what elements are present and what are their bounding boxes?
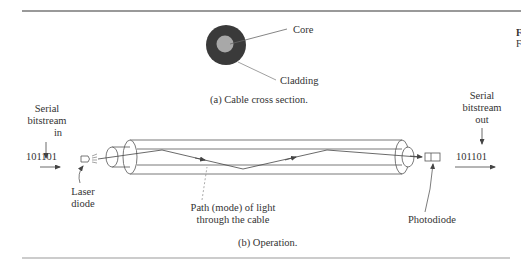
side-fragment-line2: F — [516, 38, 521, 49]
side-text-fragment: F F — [516, 27, 521, 49]
output-bits: 101101 — [456, 151, 487, 163]
path-label-line1: Path (mode) of light — [178, 202, 288, 214]
path-leader-line — [202, 167, 207, 200]
side-fragment-line1: F — [516, 27, 521, 38]
operation-caption: (b) Operation. — [238, 237, 297, 249]
cross-section-caption: (a) Cable cross section. — [210, 94, 308, 106]
laser-diode-icon — [81, 154, 97, 163]
output-title-line2: bitstream — [454, 102, 510, 114]
fiber-cable — [106, 140, 414, 174]
laser-leader-arrow — [79, 166, 83, 183]
photodiode-icon — [425, 153, 440, 161]
input-bits: 101101 — [26, 151, 57, 163]
input-title-line2: bitstream — [20, 115, 74, 127]
laser-label-line1: Laser — [68, 186, 98, 198]
cladding-leader-line — [238, 62, 276, 80]
light-path-arrow-1 — [195, 158, 205, 160]
cladding-label: Cladding — [280, 75, 319, 87]
fiber-optic-figure: Core Cladding (a) Cable cross section. S… — [0, 0, 521, 269]
output-title-line3: out — [468, 114, 496, 126]
photodiode-label: Photodiode — [408, 214, 456, 226]
laser-label-line2: diode — [68, 198, 98, 210]
path-label-line2: through the cable — [178, 214, 288, 226]
light-path — [98, 150, 418, 169]
cable-cross-section — [206, 25, 287, 80]
input-title-line1: Serial — [30, 103, 64, 115]
figure-graphics — [0, 0, 521, 269]
input-title-line3: in — [48, 127, 68, 139]
light-path-arrow-2 — [285, 157, 296, 160]
core-label: Core — [293, 24, 313, 36]
photodiode-leader-arrow — [425, 164, 433, 212]
output-title-line1: Serial — [464, 90, 500, 102]
